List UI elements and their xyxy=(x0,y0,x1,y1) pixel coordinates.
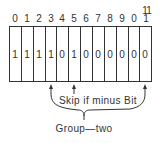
group-two-label: Group—two xyxy=(56,123,113,134)
arrow-up-icon xyxy=(143,84,147,94)
bit-value-1: 1 xyxy=(24,49,30,60)
bit-label-4: 4 xyxy=(59,13,65,24)
bit-value-5: 1 xyxy=(71,49,77,60)
bit-position-labels: 1 1 0 1 2 3 4 5 6 7 8 9 0 1 xyxy=(12,5,152,24)
bit-value-0: 1 xyxy=(12,49,18,60)
bit-label-7: 7 xyxy=(95,13,101,24)
bit-label-6: 6 xyxy=(83,13,89,24)
bit-label-8: 8 xyxy=(107,13,113,24)
bit-value-7: 0 xyxy=(95,49,101,60)
bit-value-9: 0 xyxy=(119,49,125,60)
skip-if-minus-label: Skip if minus Bit xyxy=(59,95,137,106)
bit-label-10: 0 xyxy=(131,13,137,24)
bit-label-5: 5 xyxy=(71,13,77,24)
arrow-up-icon xyxy=(49,84,53,94)
bit-value-11: 0 xyxy=(142,49,148,60)
bit-label-2: 2 xyxy=(36,13,42,24)
bit-value-8: 0 xyxy=(107,49,113,60)
bit-label-11: 1 xyxy=(143,13,149,24)
bit-label-0: 0 xyxy=(12,13,18,24)
bit-label-9: 9 xyxy=(119,13,125,24)
arrow-up-icon xyxy=(72,84,76,94)
arrows xyxy=(49,84,147,94)
register-box xyxy=(10,27,152,82)
bit-value-4: 0 xyxy=(59,49,65,60)
register-diagram: 1 1 0 1 2 3 4 5 6 7 8 9 0 1 1 1 1 1 0 1 xyxy=(0,0,163,143)
bit-value-2: 1 xyxy=(36,49,42,60)
bit-value-10: 0 xyxy=(131,49,137,60)
bit-label-1: 1 xyxy=(24,13,30,24)
bit-label-3: 3 xyxy=(48,13,54,24)
bit-value-3: 1 xyxy=(48,49,54,60)
bit-value-6: 0 xyxy=(83,49,89,60)
